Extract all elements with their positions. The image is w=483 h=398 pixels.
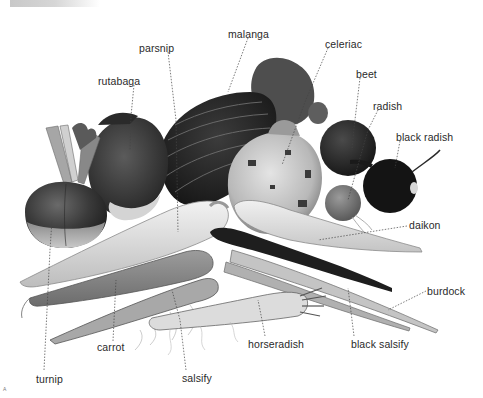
- artist-signature: A: [3, 386, 6, 392]
- label-black-salsify: black salsify: [351, 338, 409, 350]
- label-horseradish: horseradish: [248, 338, 304, 350]
- label-radish: radish: [373, 100, 402, 112]
- label-malanga: malanga: [228, 28, 269, 40]
- label-daikon: daikon: [409, 219, 441, 231]
- label-parsnip: parsnip: [139, 42, 174, 54]
- leader-malanga: [228, 38, 248, 92]
- beet: [320, 120, 376, 176]
- label-beet: beet: [356, 68, 377, 80]
- label-turnip: turnip: [36, 373, 63, 385]
- root-vegetables-diagram: parsnip malanga celeriac rutabaga beet r…: [0, 0, 483, 398]
- label-rutabaga: rutabaga: [98, 75, 140, 87]
- label-celeriac: celeriac: [325, 38, 362, 50]
- label-salsify: salsify: [182, 372, 212, 384]
- vegetable-illustration: [0, 0, 483, 398]
- label-burdock: burdock: [427, 285, 465, 297]
- leader-burdock: [388, 291, 426, 310]
- label-black-radish: black radish: [396, 131, 453, 143]
- label-carrot: carrot: [97, 341, 124, 353]
